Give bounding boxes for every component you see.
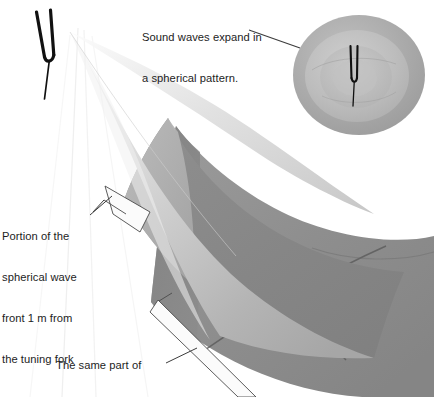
leader-line-1m [90,196,112,215]
spherical-sound-wave-diagram [0,0,434,397]
spherical-wave-inset [293,15,425,135]
tuning-fork [37,10,54,99]
leader-line-inset [249,30,300,48]
